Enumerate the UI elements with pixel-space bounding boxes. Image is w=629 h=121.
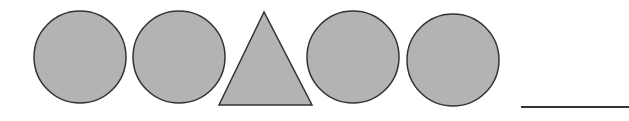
pattern-sequence bbox=[0, 0, 629, 121]
circle-shape-2 bbox=[133, 11, 225, 103]
circle-shape-4 bbox=[407, 14, 499, 106]
triangle-shape bbox=[219, 12, 312, 105]
circle-shape-3 bbox=[307, 11, 399, 103]
circle-shape-1 bbox=[34, 11, 126, 103]
